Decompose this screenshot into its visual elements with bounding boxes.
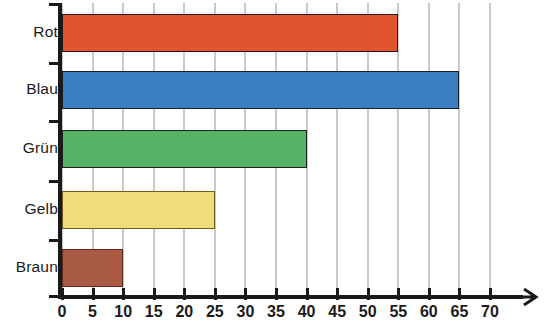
x-axis-tick-65 — [458, 288, 461, 300]
category-label-braun: Braun — [2, 258, 58, 276]
x-axis-tick-45 — [336, 288, 339, 300]
x-axis-arrow-icon — [515, 285, 539, 309]
category-label-blau: Blau — [2, 80, 58, 98]
x-axis-label-35: 35 — [267, 303, 285, 321]
category-label-gelb: Gelb — [2, 200, 58, 218]
x-axis-tick-10 — [122, 288, 125, 300]
bar-blau — [62, 71, 459, 109]
x-axis-tick-5 — [92, 288, 95, 300]
gridline-60 — [428, 3, 430, 297]
x-axis-label-5: 5 — [88, 303, 97, 321]
bar-gelb — [62, 191, 215, 229]
gridline-70 — [489, 3, 491, 297]
x-axis-tick-50 — [367, 288, 370, 300]
x-axis-tick-15 — [153, 288, 156, 300]
x-axis-label-50: 50 — [359, 303, 377, 321]
y-axis-line — [58, 3, 62, 297]
x-axis-tick-60 — [428, 288, 431, 300]
x-axis-label-70: 70 — [481, 303, 499, 321]
gridline-65 — [458, 3, 460, 297]
x-axis-tick-40 — [306, 288, 309, 300]
x-axis-tick-25 — [214, 288, 217, 300]
category-label-grün: Grün — [2, 139, 58, 157]
x-axis-tick-70 — [489, 288, 492, 300]
category-label-rot: Rot — [2, 23, 58, 41]
bar-chart: RotBlauGrünGelbBraun 0510152025303540455… — [0, 0, 546, 331]
x-axis-label-30: 30 — [237, 303, 255, 321]
x-axis-label-10: 10 — [114, 303, 132, 321]
x-axis-label-20: 20 — [175, 303, 193, 321]
bar-rot — [62, 14, 398, 52]
x-axis-label-0: 0 — [58, 303, 67, 321]
x-axis-tick-55 — [397, 288, 400, 300]
bar-braun — [62, 249, 123, 287]
x-axis-label-65: 65 — [451, 303, 469, 321]
x-axis-tick-30 — [244, 288, 247, 300]
x-axis-label-55: 55 — [389, 303, 407, 321]
x-axis-label-45: 45 — [328, 303, 346, 321]
x-axis-tick-0 — [61, 288, 64, 300]
x-axis-label-40: 40 — [298, 303, 316, 321]
x-axis-label-60: 60 — [420, 303, 438, 321]
x-axis-tick-35 — [275, 288, 278, 300]
x-axis-label-15: 15 — [145, 303, 163, 321]
x-axis-tick-20 — [183, 288, 186, 300]
bar-grün — [62, 130, 307, 168]
category-labels: RotBlauGrünGelbBraun — [0, 0, 58, 331]
x-axis-line — [58, 295, 523, 299]
x-axis-label-25: 25 — [206, 303, 224, 321]
